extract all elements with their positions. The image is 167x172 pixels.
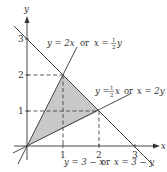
svg-text:or: or bbox=[101, 157, 111, 167]
y-axis-label: y bbox=[23, 4, 29, 14]
svg-text:y =: y = bbox=[94, 86, 110, 96]
x-axis-arrow-icon bbox=[153, 144, 160, 149]
y-tick-2: 2 bbox=[18, 70, 24, 80]
y-axis-arrow-icon bbox=[25, 16, 30, 23]
svg-text:or: or bbox=[80, 38, 90, 48]
svg-text:y = 2x: y = 2x bbox=[46, 38, 75, 48]
label-line-y-half-x: y = 1 2 x or x = 2y bbox=[94, 85, 165, 98]
svg-text:x: x bbox=[115, 86, 120, 96]
svg-text:1: 1 bbox=[110, 85, 114, 91]
svg-text:2: 2 bbox=[110, 92, 114, 98]
svg-text:x = 3 − y: x = 3 − y bbox=[114, 157, 154, 167]
svg-text:y = 3 − x: y = 3 − x bbox=[63, 157, 104, 167]
svg-text:2: 2 bbox=[112, 44, 116, 50]
label-line-y-2x: y = 2x or x = 1 2 y bbox=[46, 37, 122, 50]
svg-text:or: or bbox=[124, 86, 134, 96]
x-axis-label: x bbox=[161, 141, 166, 151]
y-tick-1: 1 bbox=[18, 106, 24, 116]
label-line-y-3-minus-x: y = 3 − x or x = 3 − y bbox=[63, 157, 154, 167]
svg-text:x = 2y: x = 2y bbox=[137, 86, 165, 96]
svg-text:1: 1 bbox=[112, 37, 116, 43]
svg-text:x =: x = bbox=[94, 38, 109, 48]
svg-text:y: y bbox=[116, 38, 122, 48]
y-tick-3: 3 bbox=[18, 34, 24, 44]
region-diagram: y x 1 2 3 1 2 3 y = 2x or x = 1 2 y y = … bbox=[0, 0, 167, 172]
